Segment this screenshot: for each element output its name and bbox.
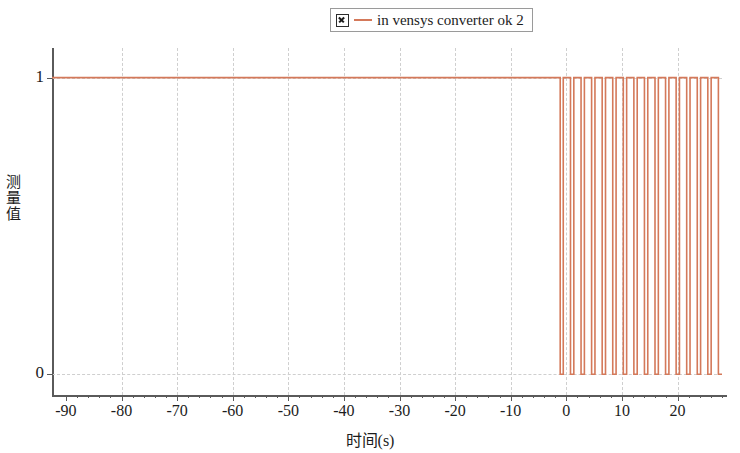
x-axis-minor-tick [366,395,367,398]
x-axis-minor-tick [466,395,467,398]
x-axis-minor-tick [644,395,645,398]
x-axis-minor-tick [322,395,323,398]
x-axis-minor-tick [711,395,712,398]
y-tick-labels: 01 [0,0,44,453]
y-axis-title-char: 值 [2,207,24,223]
checked-box-icon[interactable] [336,14,349,27]
x-axis-minor-tick [277,395,278,398]
x-tick-label: 20 [648,402,708,420]
x-tick-label: 0 [536,402,596,420]
line-swatch-icon [354,19,372,21]
x-axis-minor-tick [444,395,445,398]
x-axis-minor-tick [533,395,534,398]
x-axis-minor-tick [88,395,89,398]
x-axis-title: 时间(s) [0,427,740,451]
legend[interactable]: in vensys converter ok 2 [330,8,533,32]
x-axis-minor-tick [522,395,523,398]
x-axis-minor-tick [477,395,478,398]
x-tick-label: -70 [147,402,207,420]
x-axis-tick [344,395,345,401]
x-axis-minor-tick [488,395,489,398]
y-tick-label: 0 [36,363,45,383]
x-axis-tick [678,395,679,401]
x-axis-minor-tick [210,395,211,398]
x-axis-tick [400,395,401,401]
x-tick-label: -20 [425,402,485,420]
y-axis-title-char: 测 [2,175,24,191]
x-axis-tick [233,395,234,401]
x-axis-minor-tick [266,395,267,398]
x-axis-minor-tick [99,395,100,398]
x-axis-minor-tick [666,395,667,398]
x-tick-label: -40 [314,402,374,420]
x-axis-minor-tick [311,395,312,398]
x-axis-tick [288,395,289,401]
x-axis-minor-tick [655,395,656,398]
x-axis-tick [66,395,67,401]
x-axis-tick [511,395,512,401]
x-axis-minor-tick [388,395,389,398]
x-axis-minor-tick [422,395,423,398]
x-axis-minor-tick [689,395,690,398]
x-axis-minor-tick [244,395,245,398]
x-axis-minor-tick [589,395,590,398]
x-tick-label: -50 [258,402,318,420]
x-axis-minor-tick [333,395,334,398]
x-axis-minor-tick [255,395,256,398]
x-tick-label: 10 [592,402,652,420]
x-axis-minor-tick [133,395,134,398]
x-tick-label: -10 [481,402,541,420]
x-axis-minor-tick [144,395,145,398]
x-axis-minor-tick [77,395,78,398]
series-line-in-vensys-converter-ok-2 [52,78,722,375]
x-axis-minor-tick [600,395,601,398]
x-tick-label: -30 [370,402,430,420]
x-axis-minor-tick [544,395,545,398]
x-axis-tick [455,395,456,401]
x-axis-tick [622,395,623,401]
x-axis-minor-tick [299,395,300,398]
x-axis-minor-tick [355,395,356,398]
x-axis-tick [177,395,178,401]
y-tick-label: 1 [36,67,45,87]
x-axis-minor-tick [377,395,378,398]
legend-label: in vensys converter ok 2 [377,13,524,28]
x-axis-line [52,395,727,397]
y-axis-title-char: 量 [2,191,24,207]
x-axis-minor-tick [555,395,556,398]
x-tick-label: -80 [92,402,152,420]
x-axis-tick [566,395,567,401]
x-axis-minor-tick [155,395,156,398]
x-axis-minor-tick [500,395,501,398]
x-axis-minor-tick [166,395,167,398]
x-axis-minor-tick [611,395,612,398]
x-axis-minor-tick [722,395,723,398]
x-tick-label: -60 [203,402,263,420]
x-axis-minor-tick [199,395,200,398]
x-axis-minor-tick [700,395,701,398]
x-axis-minor-tick [433,395,434,398]
x-axis-minor-tick [110,395,111,398]
x-axis-minor-tick [411,395,412,398]
y-axis-title: 测量值 [2,175,24,222]
x-axis-minor-tick [188,395,189,398]
x-tick-label: -90 [36,402,96,420]
x-axis-tick [122,395,123,401]
x-axis-minor-tick [633,395,634,398]
x-axis-minor-tick [577,395,578,398]
x-axis-minor-tick [222,395,223,398]
data-series-layer [52,48,722,395]
